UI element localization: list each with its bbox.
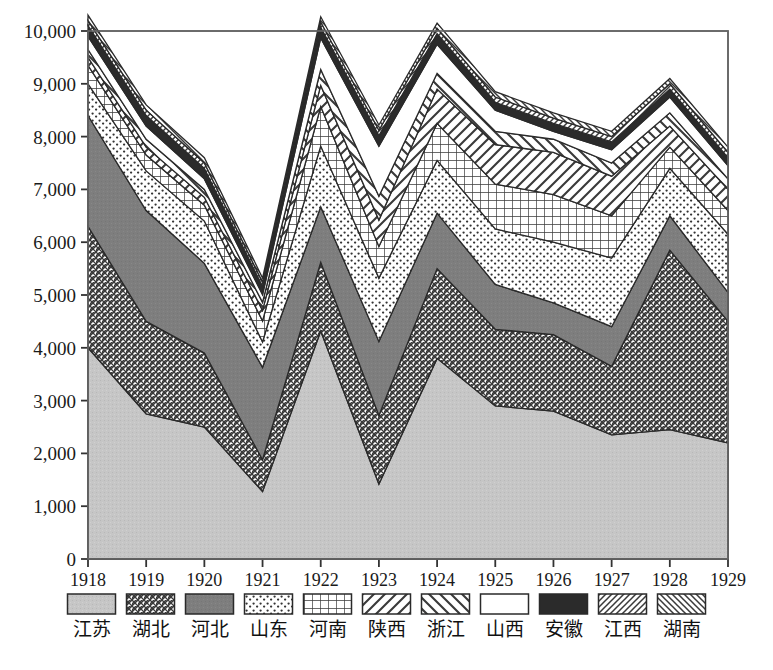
legend-swatch [245,594,293,614]
legend-label: 湖北 [132,618,170,640]
y-tick-label: 4,000 [33,338,76,359]
legend-swatch [599,594,647,614]
x-tick-label: 1927 [594,570,630,590]
legend-item-河南[interactable]: 河南 [304,594,352,640]
legend-item-湖南[interactable]: 湖南 [658,594,706,640]
legend-label: 浙江 [427,618,465,640]
legend-swatch [363,594,411,614]
legend-item-江苏[interactable]: 江苏 [68,594,116,640]
legend-item-安徽[interactable]: 安徽 [540,594,588,640]
legend-swatch [422,594,470,614]
legend-label: 湖南 [663,618,701,640]
legend-label: 安徽 [545,618,583,640]
x-tick-label: 1923 [361,570,397,590]
x-tick-label: 1929 [710,570,746,590]
legend-label: 河北 [191,618,229,640]
legend-label: 江苏 [73,618,111,640]
legend-swatch [68,594,116,614]
y-tick-label: 3,000 [33,391,76,412]
y-tick-label: 1,000 [33,496,76,517]
legend-item-湖北[interactable]: 湖北 [127,594,175,640]
y-tick-label: 6,000 [33,232,76,253]
x-tick-label: 1924 [419,570,455,590]
y-tick-label: 2,000 [33,443,76,464]
y-tick-label: 7,000 [33,179,76,200]
x-tick-label: 1928 [652,570,688,590]
legend-label: 江西 [604,618,642,640]
x-tick-label: 1921 [245,570,281,590]
x-tick-label: 1918 [70,570,106,590]
legend-label: 山西 [486,618,524,640]
legend-label: 河南 [309,618,347,640]
legend-swatch [186,594,234,614]
chart-canvas: 01,0002,0003,0004,0005,0006,0007,0008,00… [0,0,773,670]
y-tick-label: 8,000 [33,127,76,148]
legend-item-江西[interactable]: 江西 [599,594,647,640]
y-tick-label: 5,000 [33,285,76,306]
x-tick-label: 1926 [535,570,571,590]
y-tick-label: 9,000 [33,74,76,95]
legend-item-浙江[interactable]: 浙江 [422,594,470,640]
x-tick-label: 1922 [303,570,339,590]
legend-label: 陕西 [368,618,406,640]
legend-item-山东[interactable]: 山东 [245,594,293,640]
chart-legend: 江苏湖北河北山东河南陕西浙江山西安徽江西湖南 [68,594,706,640]
legend-item-山西[interactable]: 山西 [481,594,529,640]
legend-item-陕西[interactable]: 陕西 [363,594,411,640]
x-tick-label: 1919 [128,570,164,590]
legend-label: 山东 [250,618,288,640]
legend-item-河北[interactable]: 河北 [186,594,234,640]
legend-swatch [304,594,352,614]
x-axis-ticks: 1918191919201921192219231924192519261927… [70,559,746,590]
legend-swatch [658,594,706,614]
y-tick-label: 10,000 [24,21,76,42]
legend-swatch [481,594,529,614]
x-tick-label: 1920 [186,570,222,590]
stacked-area-chart: 01,0002,0003,0004,0005,0006,0007,0008,00… [0,0,773,670]
y-axis-ticks: 01,0002,0003,0004,0005,0006,0007,0008,00… [24,21,88,570]
x-tick-label: 1925 [477,570,513,590]
y-tick-label: 0 [67,549,77,570]
legend-swatch [540,594,588,614]
legend-swatch [127,594,175,614]
